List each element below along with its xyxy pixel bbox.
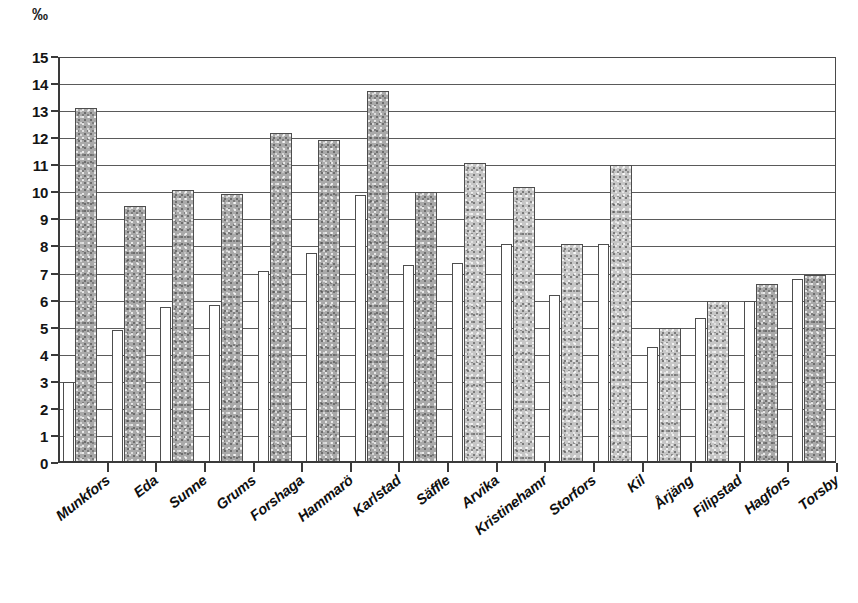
y-axis-tick-label: 12 <box>32 130 48 147</box>
bar-series-2 <box>270 133 292 463</box>
y-axis-tick-label: 9 <box>40 211 48 228</box>
bar-series-1 <box>209 305 220 463</box>
bar-group <box>253 57 302 463</box>
y-axis-tick-mark <box>51 137 58 139</box>
x-axis-tick-mark <box>107 463 109 472</box>
x-axis-tick-mark <box>350 463 352 472</box>
y-axis-tick-mark <box>51 354 58 356</box>
plot-area <box>58 57 836 463</box>
y-axis-tick-mark <box>51 408 58 410</box>
bar-series-2 <box>464 163 486 463</box>
bar-series-1 <box>403 265 414 463</box>
bar-series-1 <box>258 271 269 463</box>
x-axis-tick-mark <box>253 463 255 472</box>
y-axis-tick-mark <box>51 56 58 58</box>
bar-group <box>690 57 739 463</box>
bar-series-container <box>58 57 836 463</box>
bar-series-1 <box>695 318 706 463</box>
bar-group <box>155 57 204 463</box>
y-axis-tick-label: 14 <box>32 76 48 93</box>
y-axis-tick-mark <box>51 110 58 112</box>
bar-group <box>787 57 836 463</box>
bar-series-1 <box>306 253 317 463</box>
bar-group <box>642 57 691 463</box>
bar-series-2 <box>561 244 583 463</box>
bar-series-1 <box>452 263 463 463</box>
y-axis-tick-mark <box>51 300 58 302</box>
x-axis-tick-mark <box>836 463 838 472</box>
y-axis-tick-label: 5 <box>40 319 48 336</box>
bar-series-1 <box>160 307 171 463</box>
y-axis-tick-label: 4 <box>40 346 48 363</box>
bar-series-2 <box>610 165 632 463</box>
bar-series-2 <box>75 108 97 463</box>
x-axis-tick-mark <box>155 463 157 472</box>
bar-series-2 <box>756 284 778 463</box>
bar-series-2 <box>172 190 194 463</box>
bar-group <box>301 57 350 463</box>
bar-group <box>204 57 253 463</box>
y-axis-tick-mark <box>51 381 58 383</box>
bar-series-1 <box>647 347 658 463</box>
x-axis-tick-mark <box>739 463 741 472</box>
y-axis-tick-label: 3 <box>40 373 48 390</box>
x-axis-category-label: Karlstad <box>350 472 404 519</box>
x-axis-category-label: Sunne <box>166 472 210 511</box>
bar-series-2 <box>367 91 389 463</box>
x-axis-category-label: Eda <box>131 472 161 501</box>
y-axis-tick-label: 2 <box>40 400 48 417</box>
bar-group <box>496 57 545 463</box>
bar-series-1 <box>112 330 123 463</box>
x-axis-tick-mark <box>593 463 595 472</box>
y-axis-tick-mark <box>51 435 58 437</box>
bar-series-2 <box>124 206 146 463</box>
x-axis-category-label: Torsby <box>795 472 842 513</box>
x-axis-tick-mark <box>398 463 400 472</box>
y-axis-tick-label: 15 <box>32 49 48 66</box>
y-axis-tick-label: 13 <box>32 103 48 120</box>
x-axis-category-label: Säffle <box>413 472 453 508</box>
x-axis-ticks <box>58 463 836 472</box>
x-axis-category-label: Filipstad <box>689 472 744 520</box>
y-axis-tick-label: 6 <box>40 292 48 309</box>
bar-series-1 <box>744 301 755 463</box>
x-axis-tick-mark <box>787 463 789 472</box>
y-axis-tick-mark <box>51 191 58 193</box>
x-axis-tick-mark <box>301 463 303 472</box>
bar-group <box>739 57 788 463</box>
x-axis-tick-mark <box>642 463 644 472</box>
bar-series-1 <box>355 195 366 463</box>
y-axis-tick-label: 10 <box>32 184 48 201</box>
bar-chart-figure: ‰ 0123456789101112131415 MunkforsEdaSunn… <box>0 0 858 603</box>
y-axis-tick-label: 7 <box>40 265 48 282</box>
bar-series-2 <box>659 328 681 463</box>
bar-group <box>544 57 593 463</box>
y-axis-tick-mark <box>51 245 58 247</box>
x-axis-category-label: Hagfors <box>741 472 793 517</box>
bar-series-2 <box>707 301 729 463</box>
x-axis-category-label: Storfors <box>546 472 599 518</box>
bar-group <box>447 57 496 463</box>
bar-series-1 <box>501 244 512 463</box>
y-axis-tick-mark <box>51 273 58 275</box>
y-axis-unit-label: ‰ <box>32 6 48 24</box>
bar-group <box>350 57 399 463</box>
y-axis-tick-mark <box>51 462 58 464</box>
bar-group <box>107 57 156 463</box>
x-axis-tick-mark <box>544 463 546 472</box>
y-axis-tick-label: 8 <box>40 238 48 255</box>
bar-group <box>58 57 107 463</box>
x-axis-labels: MunkforsEdaSunneGrumsForshagaHammaröKarl… <box>0 472 858 602</box>
y-axis-tick-label: 11 <box>33 157 48 174</box>
x-axis-category-label: Munkfors <box>53 472 113 524</box>
bar-group <box>398 57 447 463</box>
y-axis-tick-mark <box>51 164 58 166</box>
x-axis-tick-mark <box>690 463 692 472</box>
y-axis-tick-mark <box>51 218 58 220</box>
x-axis-category-label: Arvika <box>458 472 502 511</box>
x-axis-tick-mark <box>496 463 498 472</box>
bar-series-2 <box>513 187 535 463</box>
bar-series-1 <box>549 295 560 463</box>
y-axis-tick-label: 1 <box>40 427 48 444</box>
y-axis-tick-mark <box>51 327 58 329</box>
